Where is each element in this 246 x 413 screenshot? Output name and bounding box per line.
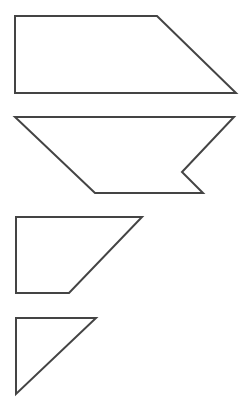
right-trapezoid-shape [15, 16, 236, 93]
small-trapezoid-shape [16, 217, 142, 293]
triangle-shape [16, 318, 96, 394]
shapes-canvas [0, 0, 246, 413]
notched-trapezoid-shape [15, 117, 234, 193]
